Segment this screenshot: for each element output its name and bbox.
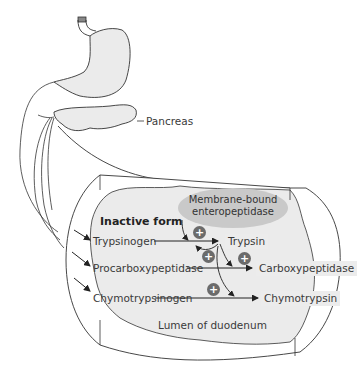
pancreas-label: Pancreas — [146, 116, 193, 127]
enteropeptidase-line2: enteropeptidase — [178, 206, 288, 218]
pancreas — [54, 105, 136, 131]
inactive-trypsinogen: Trypsinogen — [93, 236, 156, 247]
inactive-form-heading: Inactive form — [100, 216, 183, 227]
activation-plus-icon: + — [193, 226, 206, 239]
activation-plus-icon: + — [207, 283, 220, 296]
activation-plus-icon: + — [238, 252, 251, 265]
enteropeptidase-line1: Membrane-bound — [178, 194, 288, 206]
inactive-chymotrypsinogen: Chymotrypsinogen — [93, 293, 192, 304]
activation-plus-icon: + — [202, 250, 215, 263]
lumen-label: Lumen of duodenum — [158, 320, 267, 331]
active-carboxypeptidase: Carboxypeptidase — [256, 261, 357, 276]
inactive-procarboxypeptidase: Procarboxypeptidase — [93, 263, 203, 274]
esophagus-opening — [78, 17, 86, 22]
active-trypsin: Trypsin — [225, 234, 268, 249]
active-chymotrypsin: Chymotrypsin — [261, 291, 340, 306]
enteropeptidase-bubble: Membrane-bound enteropeptidase — [178, 188, 288, 228]
stomach — [54, 29, 130, 98]
